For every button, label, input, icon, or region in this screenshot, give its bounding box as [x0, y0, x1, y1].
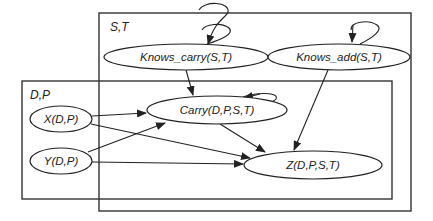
edge-knows-add-self-loop-head — [352, 25, 353, 42]
node-knows-carry-label: Knows_carry(S,T) — [140, 51, 232, 63]
plate-d-p-label: D,P — [30, 88, 50, 102]
node-x: X(D,P) — [30, 106, 92, 132]
node-z: Z(D,P,S,T) — [244, 151, 382, 179]
plate-s-t-label: S,T — [110, 20, 130, 34]
edge-x-to-carry — [92, 113, 146, 116]
node-knows-carry: Knows_carry(S,T) — [104, 44, 268, 70]
edge-y-to-z — [92, 162, 243, 164]
node-x-label: X(D,P) — [43, 113, 79, 125]
node-carry-label: Carry(D,P,S,T) — [180, 104, 255, 116]
node-carry: Carry(D,P,S,T) — [147, 96, 287, 124]
edge-knows-add-to-z — [294, 70, 328, 150]
edge-knows-carry-loop-arc — [202, 24, 230, 44]
edge-knows-carry-to-carry — [186, 70, 193, 95]
edge-knows-add-self-loop-arc — [351, 22, 379, 44]
plate-diagram: S,T D,P Knows_carry(S,T) Knows_add(S,T) … — [0, 0, 433, 221]
node-z-label: Z(D,P,S,T) — [285, 159, 340, 171]
node-y: Y(D,P) — [30, 148, 92, 174]
node-knows-add-label: Knows_add(S,T) — [296, 51, 382, 63]
node-y-label: Y(D,P) — [44, 155, 79, 167]
edge-carry-to-z — [220, 124, 265, 152]
edge-x-to-z — [91, 124, 250, 158]
node-knows-add: Knows_add(S,T) — [268, 44, 410, 70]
